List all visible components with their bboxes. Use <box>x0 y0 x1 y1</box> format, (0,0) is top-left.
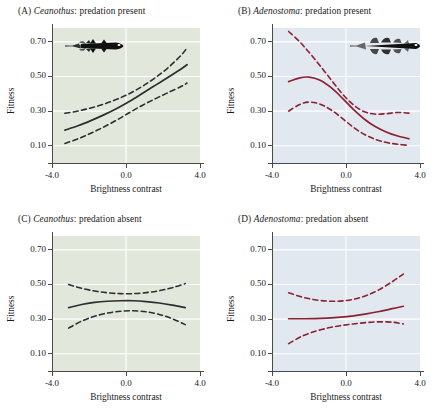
y-axis-tick <box>48 319 52 320</box>
x-axis-tick-label: 4.0 <box>180 378 220 388</box>
y-axis-title: Fitness <box>6 87 16 113</box>
y-axis-tick-label: 0.50 <box>228 278 266 288</box>
y-axis-tick <box>268 111 272 112</box>
salamander-larva-body <box>350 36 422 56</box>
x-axis-tick-label: 4.0 <box>400 378 440 388</box>
x-axis-tick <box>126 164 127 168</box>
x-axis-tick <box>272 372 273 376</box>
y-axis-tick <box>48 284 52 285</box>
y-axis-tick-label: 0.50 <box>8 278 46 288</box>
x-axis-tick-label: 0.0 <box>326 170 366 180</box>
x-axis-tick <box>346 372 347 376</box>
x-axis-tick <box>420 164 421 168</box>
salamander-larva-adenostoma-icon <box>350 36 422 56</box>
panel-a: (A) Ceanothus: predation present0.700.50… <box>0 0 220 208</box>
y-axis-tick <box>48 111 52 112</box>
y-axis-line <box>272 24 273 163</box>
y-axis-tick-label: 0.10 <box>8 348 46 358</box>
y-axis-tick-label: 0.70 <box>8 244 46 254</box>
y-axis-title: Fitness <box>226 295 236 321</box>
fitted-curve <box>289 77 409 139</box>
y-axis-line <box>272 232 273 371</box>
x-axis-tick-label: -4.0 <box>32 378 72 388</box>
confidence-band-curve <box>289 102 409 145</box>
x-axis-title: Brightness contrast <box>252 184 440 194</box>
x-axis-tick <box>200 372 201 376</box>
y-axis-tick-label: 0.70 <box>228 244 266 254</box>
x-axis-tick-label: 4.0 <box>400 170 440 180</box>
y-axis-title: Fitness <box>6 295 16 321</box>
y-axis-tick <box>48 41 52 42</box>
x-axis-tick <box>52 372 53 376</box>
x-axis-tick-label: -4.0 <box>32 170 72 180</box>
y-axis-tick-label: 0.50 <box>8 70 46 80</box>
y-axis-tick <box>48 249 52 250</box>
y-axis-tick <box>48 145 52 146</box>
x-axis-tick <box>346 164 347 168</box>
y-axis-tick <box>268 353 272 354</box>
x-axis-title: Brightness contrast <box>252 392 440 402</box>
y-axis-tick <box>268 145 272 146</box>
x-axis-title: Brightness contrast <box>32 392 220 402</box>
confidence-band-curve <box>69 284 186 294</box>
y-axis-tick <box>48 353 52 354</box>
x-axis-tick-label: -4.0 <box>252 170 292 180</box>
y-axis-tick-label: 0.10 <box>228 348 266 358</box>
salamander-larva-ceanothus-icon <box>64 38 126 54</box>
y-axis-tick <box>268 41 272 42</box>
x-axis-tick-label: 0.0 <box>106 170 146 180</box>
y-axis-title: Fitness <box>226 87 236 113</box>
x-axis-tick-label: -4.0 <box>252 378 292 388</box>
x-axis-tick-label: 4.0 <box>180 170 220 180</box>
y-axis-tick <box>48 76 52 77</box>
panel-d: (D) Adenostoma: predation absent0.700.50… <box>220 208 440 417</box>
y-axis-tick-label: 0.10 <box>8 140 46 150</box>
x-axis-tick <box>126 372 127 376</box>
y-axis-tick <box>268 76 272 77</box>
fitted-curve <box>69 301 186 308</box>
x-axis-tick <box>52 164 53 168</box>
y-axis-tick <box>268 249 272 250</box>
x-axis-tick <box>200 164 201 168</box>
x-axis-tick <box>272 164 273 168</box>
figure-panel-grid: (A) Ceanothus: predation present0.700.50… <box>0 0 440 417</box>
panel-c: (C) Ceanothus: predation absent0.700.500… <box>0 208 220 417</box>
y-axis-tick-label: 0.70 <box>8 36 46 46</box>
y-axis-tick <box>268 284 272 285</box>
panel-b: (B) Adenostoma: predation present0.700.5… <box>220 0 440 208</box>
y-axis-line <box>52 24 53 163</box>
y-axis-line <box>52 232 53 371</box>
x-axis-title: Brightness contrast <box>32 184 220 194</box>
x-axis-tick-label: 0.0 <box>106 378 146 388</box>
y-axis-tick-label: 0.50 <box>228 70 266 80</box>
salamander-larva-body <box>64 38 126 54</box>
y-axis-tick <box>268 319 272 320</box>
x-axis-tick <box>420 372 421 376</box>
x-axis-tick-label: 0.0 <box>326 378 366 388</box>
y-axis-tick-label: 0.10 <box>228 140 266 150</box>
y-axis-tick-label: 0.70 <box>228 36 266 46</box>
